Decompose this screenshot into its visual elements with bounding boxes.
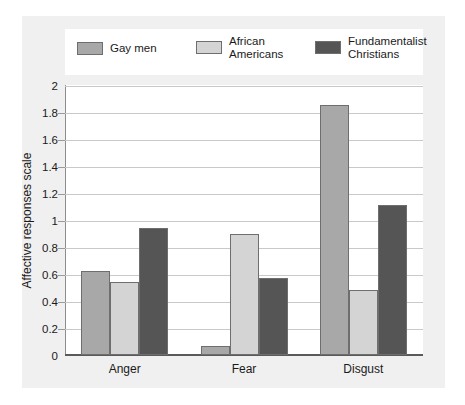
y-axis-tick-mark [58, 167, 65, 168]
y-axis-tick-mark [58, 275, 65, 276]
legend-item: African Americans [196, 35, 283, 60]
y-axis-title: Affective responses scale [18, 85, 36, 356]
legend-swatch-icon [77, 42, 103, 55]
legend-label: Gay men [110, 42, 157, 55]
y-axis-tick-label: 0.6 [42, 269, 58, 281]
bar [378, 205, 407, 355]
legend-item: Fundamentalist Christians [315, 35, 427, 60]
x-axis-tick-label: Fear [232, 362, 257, 376]
y-axis-tick-mark [58, 221, 65, 222]
y-axis-tick-label: 0.8 [42, 242, 58, 254]
y-axis-tick-label: 1.8 [42, 107, 58, 119]
legend-label: African Americans [229, 35, 283, 60]
x-axis-tick-label: Anger [109, 362, 141, 376]
x-axis-tick-label: Disgust [343, 362, 383, 376]
bar [81, 271, 110, 355]
y-axis-tick-mark [58, 248, 65, 249]
bar [259, 278, 288, 355]
gridline [65, 194, 423, 195]
gridline [65, 86, 423, 87]
bar [139, 228, 168, 355]
bar [320, 105, 349, 355]
y-axis-tick-label: 1.4 [42, 161, 58, 173]
y-axis-tick-mark [58, 302, 65, 303]
y-axis-tick-mark [58, 140, 65, 141]
legend-swatch-icon [196, 41, 222, 54]
gridline [65, 140, 423, 141]
legend-swatch-icon [315, 41, 341, 54]
y-axis-tick-mark [58, 329, 65, 330]
chart-legend: Gay menAfrican AmericansFundamentalist C… [65, 29, 423, 75]
y-axis-tick-label: 0 [52, 350, 58, 362]
bar [230, 234, 259, 356]
y-axis-tick-mark [58, 113, 65, 114]
bar [349, 290, 378, 355]
y-axis-tick-label: 1.2 [42, 188, 58, 200]
gridline [65, 167, 423, 168]
legend-label: Fundamentalist Christians [348, 35, 427, 60]
y-axis-tick-mark [58, 194, 65, 195]
legend-item: Gay men [77, 42, 157, 55]
plot-area: 00.20.40.60.811.21.41.61.82AngerFearDisg… [65, 85, 423, 356]
bar [110, 282, 139, 355]
y-axis-tick-label: 0.2 [42, 323, 58, 335]
y-axis-tick-label: 1.6 [42, 134, 58, 146]
bar-chart: Gay menAfrican AmericansFundamentalist C… [0, 0, 465, 405]
y-axis-tick-label: 0.4 [42, 296, 58, 308]
gridline [65, 113, 423, 114]
bar [201, 346, 230, 355]
y-axis-tick-label: 2 [52, 80, 58, 92]
gridline [65, 221, 423, 222]
